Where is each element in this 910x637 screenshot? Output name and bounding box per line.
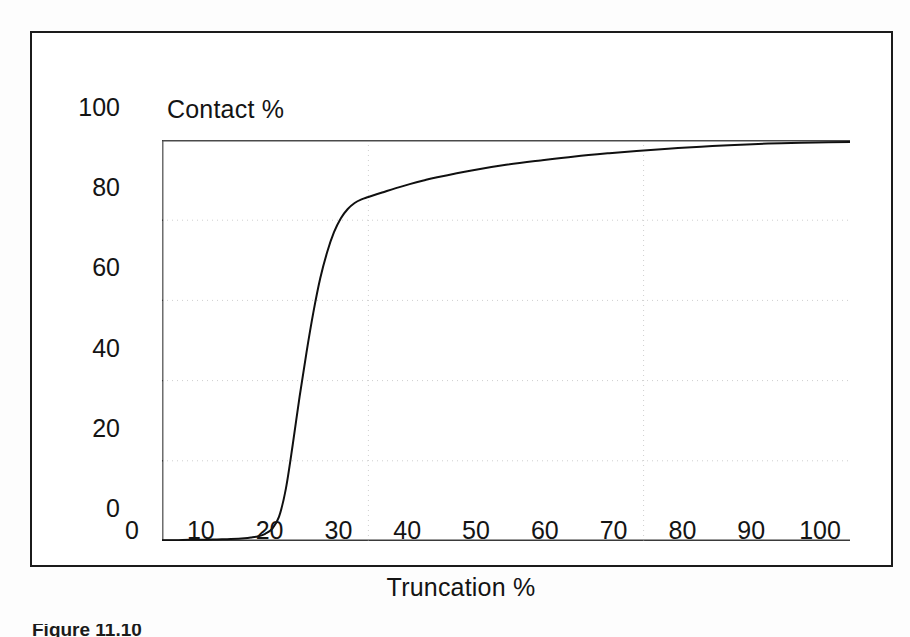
chart-canvas bbox=[162, 140, 850, 541]
x-tick-label: 100 bbox=[780, 516, 860, 545]
y-tick-label: 80 bbox=[50, 173, 120, 202]
contact-curve bbox=[162, 142, 850, 540]
y-tick-label: 60 bbox=[50, 253, 120, 282]
y-tick-label: 20 bbox=[50, 414, 120, 443]
vertical-gridlines bbox=[368, 140, 643, 541]
x-axis-title: Truncation % bbox=[32, 573, 910, 602]
horizontal-gridlines bbox=[162, 140, 850, 461]
figure-frame: Contact % 020406080100 01020304050607080… bbox=[30, 31, 893, 567]
plot-area bbox=[162, 140, 850, 541]
x-axis-title-text: Truncation % bbox=[387, 573, 536, 602]
figure-caption-text: Figure 11.10 bbox=[32, 624, 552, 637]
y-axis-title: Contact % bbox=[167, 95, 284, 124]
y-tick-label: 40 bbox=[50, 334, 120, 363]
figure-caption: Figure 11.10 bbox=[32, 624, 552, 637]
y-tick-label: 100 bbox=[50, 93, 120, 122]
